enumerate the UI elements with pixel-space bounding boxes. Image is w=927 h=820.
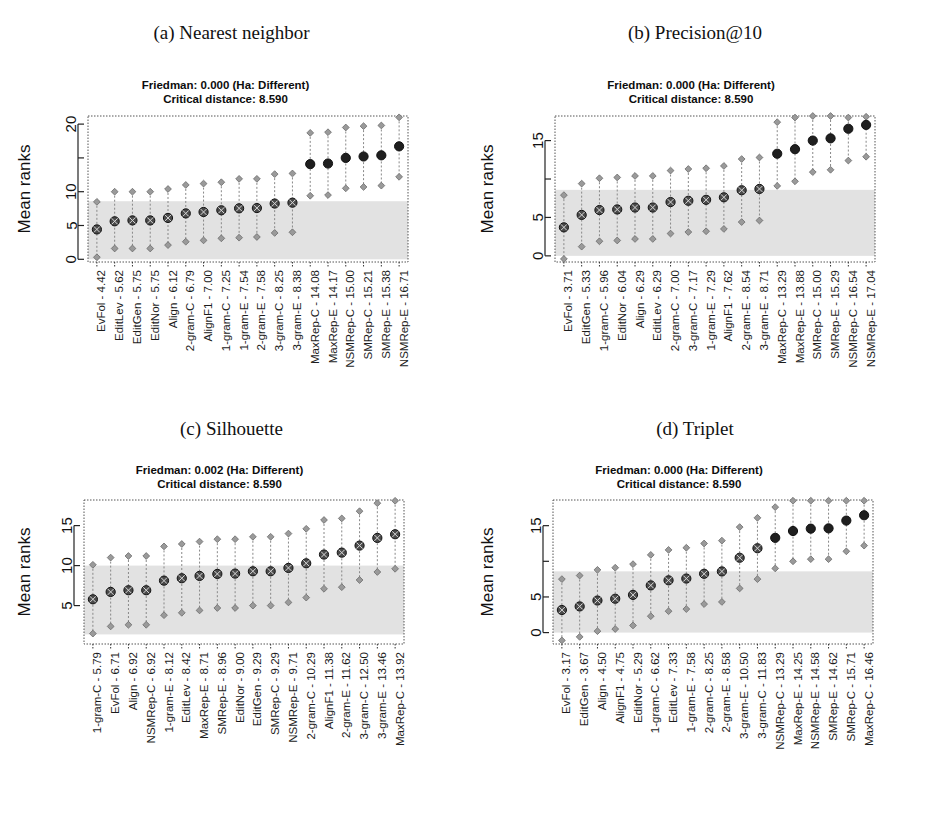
whisker-endpoint: [754, 514, 761, 521]
whisker-endpoint: [178, 541, 185, 548]
whisker-endpoint: [392, 497, 399, 504]
category-label: AlignF1 - 7.00: [202, 270, 214, 342]
whisker-endpoint: [738, 156, 745, 163]
cd-plot-figure: (a) Nearest neighbor Friedman: 0.000 (Ha…: [0, 0, 927, 820]
whisker-endpoint: [360, 184, 367, 191]
category-label: MaxRep-C - 14.08: [309, 270, 321, 364]
mean-rank-point-significant: [862, 120, 871, 129]
rank-marker: [359, 123, 368, 191]
whisker-endpoint: [325, 192, 332, 199]
category-label: EditGen - 3.67: [578, 652, 590, 726]
category-label: EditGen - 5.75: [131, 270, 143, 344]
rank-marker: [842, 497, 851, 554]
rank-marker: [790, 114, 799, 185]
whisker-endpoint: [342, 185, 349, 192]
whisker-endpoint: [845, 114, 852, 121]
mean-rank-point-significant: [323, 159, 332, 168]
whisker-endpoint: [772, 504, 779, 511]
y-tick-label: 5: [63, 221, 80, 229]
category-label: 3-gram-C - 11.83: [756, 652, 768, 739]
rank-marker: [773, 119, 782, 190]
category-label: EvFol - 3.17: [560, 652, 572, 714]
whisker-endpoint: [825, 497, 832, 504]
whisker-endpoint: [685, 166, 692, 173]
significance-band: [84, 566, 404, 635]
rank-marker: [391, 497, 400, 572]
rank-marker: [808, 113, 817, 176]
panel-a: (a) Nearest neighbor Friedman: 0.000 (Ha…: [0, 0, 463, 410]
mean-rank-point-significant: [341, 153, 350, 162]
mean-rank-point-significant: [773, 149, 782, 158]
whisker-endpoint: [165, 186, 172, 193]
mean-rank-point-significant: [842, 516, 851, 525]
whisker-endpoint: [253, 175, 260, 182]
whisker-endpoint: [232, 536, 239, 543]
whisker-endpoint: [129, 188, 136, 195]
category-label: 2-gram-C - 8.25: [703, 652, 715, 733]
panel-c-friedman-line: Friedman: 0.002 (Ha: Different): [0, 463, 451, 477]
whisker-endpoint: [809, 113, 816, 120]
y-tick-label: 0: [530, 252, 547, 260]
category-label: NSMRep-C - 13.29: [774, 652, 786, 750]
y-tick-label: 15: [528, 517, 545, 534]
y-tick-label: 5: [530, 213, 547, 221]
whisker-endpoint: [827, 166, 834, 173]
whisker-endpoint: [792, 178, 799, 185]
whisker-endpoint: [701, 540, 708, 547]
mean-rank-point-significant: [790, 145, 799, 154]
category-label: MaxRep-E - 14.17: [327, 270, 339, 363]
category-label: NSMRep-C - 16.54: [847, 269, 859, 367]
y-tick-label: 5: [528, 593, 545, 601]
category-label: Align - 6.92: [127, 652, 139, 710]
whisker-endpoint: [578, 180, 585, 187]
whisker-endpoint: [632, 173, 639, 180]
whisker-endpoint: [360, 123, 367, 130]
rank-marker: [862, 113, 871, 160]
whisker-endpoint: [790, 497, 797, 504]
whisker-endpoint: [649, 173, 656, 180]
whisker-endpoint: [845, 157, 852, 164]
whisker-endpoint: [667, 167, 674, 174]
category-label: 3-gram-E - 8.38: [291, 270, 303, 351]
panel-b-plot: 0515Mean ranksEvFol - 3.71EditGen - 5.33…: [463, 108, 927, 408]
category-label: 3-gram-E - 10.50: [738, 652, 750, 739]
whisker-endpoint: [825, 556, 832, 563]
category-label: SMRep-C - 15.00: [811, 270, 823, 359]
rank-marker: [844, 114, 853, 164]
rank-marker: [806, 497, 815, 562]
panel-a-friedman-line: Friedman: 0.000 (Ha: Different): [0, 78, 457, 92]
whisker-endpoint: [396, 114, 403, 121]
mean-rank-point-significant: [788, 526, 797, 535]
category-label: SMRep-E - 15.29: [829, 270, 841, 359]
mean-rank-point-significant: [824, 524, 833, 533]
rank-marker: [341, 124, 350, 192]
y-tick-label: 10: [59, 557, 76, 574]
category-label: 2-gram-C - 10.29: [305, 652, 317, 740]
category-label: Align - 4.50: [596, 652, 608, 710]
whisker-endpoint: [558, 637, 565, 644]
mean-rank-point-significant: [808, 136, 817, 145]
category-label: Align - 6.12: [167, 270, 179, 328]
whisker-endpoint: [807, 556, 814, 563]
whisker-endpoint: [790, 558, 797, 565]
category-label: 1-gram-C - 5.79: [91, 652, 103, 733]
rank-marker: [788, 497, 797, 564]
whisker-endpoint: [200, 180, 207, 187]
whisker-endpoint: [807, 497, 814, 504]
whisker-endpoint: [161, 543, 168, 550]
panel-d: (d) Triplet Friedman: 0.000 (Ha: Differe…: [463, 398, 927, 820]
category-label: EvFol - 3.71: [562, 270, 574, 332]
category-label: EditLev - 6.29: [651, 270, 663, 341]
panel-a-caption: (a) Nearest neighbor: [0, 22, 463, 44]
category-label: 2-gram-E - 8.54: [740, 269, 752, 350]
whisker-endpoint: [683, 544, 690, 551]
category-label: 3-gram-C - 7.17: [687, 270, 699, 351]
whisker-endpoint: [630, 561, 637, 568]
y-tick-label: 0: [63, 255, 80, 263]
panel-d-caption: (d) Triplet: [463, 418, 927, 440]
whisker-endpoint: [111, 188, 118, 195]
whisker-endpoint: [303, 525, 310, 532]
whisker-endpoint: [271, 171, 278, 178]
category-label: 2-gram-E - 7.58: [255, 270, 267, 351]
mean-rank-point-significant: [826, 134, 835, 143]
